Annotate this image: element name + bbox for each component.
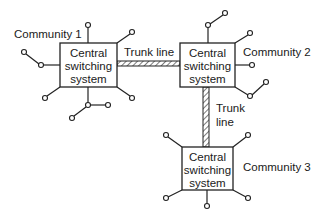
trunk-line-2-3-label-line-1: Trunk: [216, 102, 245, 114]
community-2-label: Community 2: [243, 46, 311, 58]
central-switching-system-2: Central switching system: [180, 43, 235, 87]
box-3-line-1: Central: [189, 151, 226, 163]
box-3-line-2: switching: [184, 164, 231, 176]
box-1-line-3: system: [70, 73, 106, 85]
telephone-network-diagram: Central switching system Central switchi…: [0, 0, 325, 222]
trunk-line-2-3: [203, 87, 209, 147]
box-3-line-3: system: [189, 177, 225, 189]
community-1-label: Community 1: [14, 28, 82, 40]
trunk-line-1-2-label: Trunk line: [124, 46, 174, 58]
box-2-line-3: system: [189, 73, 225, 85]
box-2-line-2: switching: [184, 60, 231, 72]
community-3-label: Community 3: [243, 161, 311, 173]
box-1-line-1: Central: [70, 47, 107, 59]
central-switching-system-3: Central switching system: [182, 147, 233, 190]
central-switching-system-1: Central switching system: [60, 43, 117, 87]
box-2-line-1: Central: [189, 47, 226, 59]
trunk-line-1-2: [117, 61, 180, 66]
trunk-line-2-3-label-line-2: line: [216, 116, 234, 128]
box-1-line-2: switching: [65, 60, 112, 72]
